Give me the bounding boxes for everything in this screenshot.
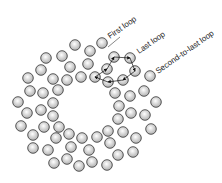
particle-circle [140,110,151,121]
loop-diagram: First loop Last loop Second-to-last loop [0,0,222,183]
particle-circle [62,154,73,165]
particle-circle [48,111,59,122]
particle-circle [103,126,114,137]
particle-circle [139,86,150,97]
particle-circle [110,88,121,99]
particle-circle [76,72,87,83]
particle-circle [51,133,62,144]
particle-circle [151,97,162,108]
particle-circle [48,98,59,109]
particle-circle [13,97,24,108]
particle-circle [113,114,124,125]
first-loop-label: First loop [106,14,139,41]
particle-circle [105,138,116,149]
diagram-canvas: First loop Last loop Second-to-last loop [0,0,222,183]
particle-circle [53,85,64,96]
particle-circle [28,143,39,154]
particle-circle [23,73,34,84]
particle-circle [145,71,156,82]
particle-circle [64,129,75,140]
particle-circle [39,122,50,133]
particle-circle [85,46,96,57]
particle-circle [113,150,124,161]
particle-circle [16,121,27,132]
particle-circle [28,130,39,141]
particle-circles [13,38,162,172]
particle-circle [62,75,73,86]
particle-circle [54,122,65,133]
particle-circle [118,127,129,138]
particle-circle [70,40,81,51]
particle-circle [41,53,52,64]
particle-circle [77,133,88,144]
particle-circle [146,124,157,135]
particle-circle [38,88,49,99]
particle-circle [22,108,33,119]
particle-circle [128,147,139,158]
particle-circle [126,108,137,119]
particle-circle [83,59,94,70]
particle-circle [125,91,136,102]
particle-circle [57,51,68,62]
particle-circle [43,145,54,156]
particle-circle [87,157,98,168]
particle-circle [97,38,108,49]
particle-circle [131,133,142,144]
particle-circle [65,62,76,73]
particle-circle [66,142,77,153]
particle-circle [74,161,85,172]
last-loop-label: Last loop [135,29,167,55]
particle-circle [114,101,125,112]
particle-circle [84,145,95,156]
particle-circle [102,160,113,171]
particle-circle [25,86,36,97]
particle-circle [49,158,60,169]
particle-circle [92,132,103,143]
particle-circle [36,65,47,76]
particle-circle [36,105,47,116]
particle-circle [48,74,59,85]
